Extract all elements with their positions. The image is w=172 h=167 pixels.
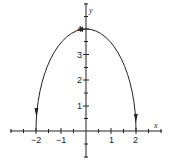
x-tick-label: 2 <box>133 135 138 145</box>
x-axis-label: x <box>153 121 158 130</box>
arrow-left-end-icon <box>35 108 39 117</box>
y-axis-label: y <box>88 6 93 15</box>
y-tick-label: 2 <box>77 75 82 85</box>
x-tick-label: −1 <box>56 135 66 145</box>
y-tick-label: 1 <box>77 101 82 111</box>
arrow-right-end-icon <box>134 114 138 123</box>
y-tick-label: 3 <box>77 50 82 60</box>
x-tick-label: −2 <box>31 135 41 145</box>
x-tick-label: 1 <box>109 135 114 145</box>
plot: y x −2 −1 1 2 1 2 3 4 <box>0 0 172 167</box>
